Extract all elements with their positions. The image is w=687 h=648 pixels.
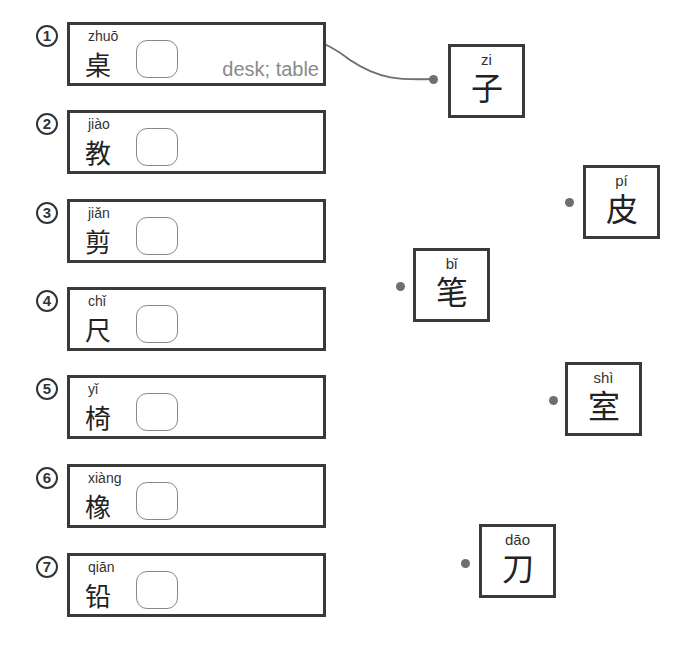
word-box-7: qiān 铅 xyxy=(67,553,326,617)
item-number-6: 6 xyxy=(36,467,58,489)
answer-slot[interactable] xyxy=(136,40,178,78)
item-number-7: 7 xyxy=(36,556,58,578)
answer-slot[interactable] xyxy=(136,305,178,343)
card-pinyin: bǐ xyxy=(416,255,487,273)
connection-dot-dao[interactable] xyxy=(461,559,470,568)
char-card-bi[interactable]: bǐ 笔 xyxy=(413,248,490,322)
connection-dot-bi[interactable] xyxy=(396,282,405,291)
card-hanzi: 刀 xyxy=(482,549,553,589)
char-card-pi[interactable]: pí 皮 xyxy=(583,165,660,239)
item-number-3: 3 xyxy=(36,202,58,224)
word-hanzi: 桌 xyxy=(85,45,111,82)
card-hanzi: 子 xyxy=(451,69,522,109)
word-hanzi: 椅 xyxy=(85,398,111,435)
connection-dot-zi[interactable] xyxy=(429,75,438,84)
word-box-3: jiǎn 剪 xyxy=(67,199,326,263)
connection-dot-shi[interactable] xyxy=(549,396,558,405)
item-number-5: 5 xyxy=(36,378,58,400)
item-number-1: 1 xyxy=(36,25,58,47)
card-pinyin: shì xyxy=(568,369,639,387)
word-meaning: desk; table xyxy=(222,58,319,81)
word-pinyin: zhuō xyxy=(88,28,118,44)
word-box-6: xiàng 橡 xyxy=(67,464,326,528)
word-box-5: yǐ 椅 xyxy=(67,375,326,439)
word-pinyin: chǐ xyxy=(88,293,106,309)
card-pinyin: dāo xyxy=(482,531,553,549)
word-hanzi: 铅 xyxy=(85,576,111,613)
word-hanzi: 剪 xyxy=(85,222,111,259)
word-box-2: jiào 教 xyxy=(67,110,326,174)
answer-slot[interactable] xyxy=(136,482,178,520)
word-pinyin: jiǎn xyxy=(88,205,110,221)
word-pinyin: qiān xyxy=(88,559,114,575)
char-card-dao[interactable]: dāo 刀 xyxy=(479,524,556,598)
word-pinyin: xiàng xyxy=(88,470,121,486)
word-box-4: chǐ 尺 xyxy=(67,287,326,351)
answer-slot[interactable] xyxy=(136,393,178,431)
card-pinyin: pí xyxy=(586,172,657,190)
word-hanzi: 教 xyxy=(85,133,111,170)
answer-slot[interactable] xyxy=(136,128,178,166)
word-pinyin: jiào xyxy=(88,116,110,132)
connection-dot-pi[interactable] xyxy=(565,198,574,207)
item-number-2: 2 xyxy=(36,113,58,135)
card-hanzi: 笔 xyxy=(416,273,487,313)
word-box-1: zhuō 桌 desk; table xyxy=(67,22,326,86)
card-hanzi: 皮 xyxy=(586,190,657,230)
answer-slot[interactable] xyxy=(136,571,178,609)
word-pinyin: yǐ xyxy=(88,381,98,397)
card-hanzi: 室 xyxy=(568,387,639,427)
char-card-shi[interactable]: shì 室 xyxy=(565,362,642,436)
card-pinyin: zi xyxy=(451,51,522,69)
item-number-4: 4 xyxy=(36,290,58,312)
answer-slot[interactable] xyxy=(136,217,178,255)
word-hanzi: 橡 xyxy=(85,487,111,524)
char-card-zi[interactable]: zi 子 xyxy=(448,44,525,118)
word-hanzi: 尺 xyxy=(85,310,111,347)
